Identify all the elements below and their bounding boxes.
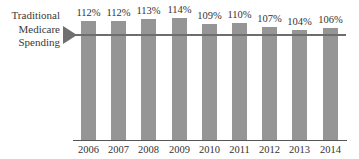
bar-2013: [292, 30, 307, 140]
bar-2012: [262, 27, 277, 140]
reference-label-line2: Medicare: [0, 23, 60, 37]
bar-2011: [232, 23, 247, 140]
bar-2007: [111, 21, 126, 140]
x-axis-baseline: [73, 140, 347, 141]
reference-label: Traditional Medicare Spending: [0, 9, 60, 50]
bar-2006: [81, 21, 96, 140]
reference-line: [74, 34, 346, 36]
bar-2008: [141, 19, 156, 140]
bar-2010: [202, 24, 217, 140]
bar-2014: [323, 28, 338, 140]
reference-label-line1: Traditional: [0, 9, 60, 23]
reference-label-line3: Spending: [0, 36, 60, 50]
value-label-2014: 106%: [311, 14, 351, 25]
bar-2009: [172, 18, 187, 140]
x-tick-2014: 2014: [311, 144, 351, 155]
